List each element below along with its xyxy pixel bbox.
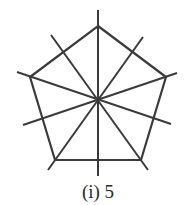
- pentagon-diagram: [0, 0, 186, 205]
- symmetry-line-2: [17, 72, 171, 124]
- symmetry-lines: [17, 10, 177, 176]
- figure-caption: (i) 5: [0, 181, 186, 203]
- symmetry-line-4: [48, 37, 143, 170]
- pentagon-symmetry-figure: (i) 5: [0, 0, 186, 205]
- symmetry-line-5: [51, 35, 148, 170]
